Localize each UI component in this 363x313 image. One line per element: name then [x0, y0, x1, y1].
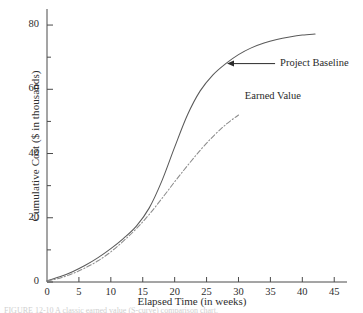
x-tick-label-15: 15 [130, 286, 156, 297]
plot-area [0, 0, 363, 313]
x-tick-label-5: 5 [66, 286, 92, 297]
y-axis-ticks [47, 25, 53, 282]
x-tick-label-0: 0 [34, 286, 60, 297]
x-axis-ticks [79, 277, 334, 282]
y-tick-label-60: 60 [13, 82, 39, 93]
annotation-earned-value: Earned Value [245, 90, 301, 101]
axes [47, 9, 347, 282]
data-series [47, 34, 315, 281]
y-tick-label-20: 20 [13, 211, 39, 222]
figure-caption: FIGURE 12-10 A classic earned value (S-c… [4, 307, 344, 313]
x-tick-label-25: 25 [194, 286, 220, 297]
y-tick-label-0: 0 [13, 275, 39, 286]
y-tick-label-40: 40 [13, 147, 39, 158]
x-tick-label-40: 40 [289, 286, 315, 297]
series-line-earned-value [47, 115, 238, 281]
x-tick-label-10: 10 [98, 286, 124, 297]
y-tick-label-80: 80 [13, 18, 39, 29]
annotation-project-baseline: Project Baseline [280, 57, 349, 68]
chart-figure: Cumulative Cost ($ in thousands) Elapsed… [0, 0, 363, 313]
x-tick-label-45: 45 [321, 286, 347, 297]
series-line-project-baseline [47, 34, 315, 281]
x-tick-label-20: 20 [162, 286, 188, 297]
x-tick-label-35: 35 [257, 286, 283, 297]
x-tick-label-30: 30 [225, 286, 251, 297]
annotation-arrow [227, 61, 275, 67]
